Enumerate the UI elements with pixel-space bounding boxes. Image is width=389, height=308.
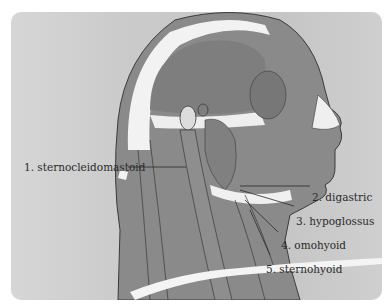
leader-lines — [11, 12, 382, 300]
diagram-panel: 1. sternocleidomastoid 2. digastric 3. h… — [11, 12, 382, 300]
label-sternocleidomastoid: 1. sternocleidomastoid — [24, 161, 145, 173]
label-omohyoid: 4. omohyoid — [281, 239, 346, 251]
label-sternohyoid: 5. sternohyoid — [266, 263, 342, 275]
label-digastric: 2. digastric — [312, 191, 372, 203]
label-hypoglossus: 3. hypoglossus — [296, 215, 374, 227]
